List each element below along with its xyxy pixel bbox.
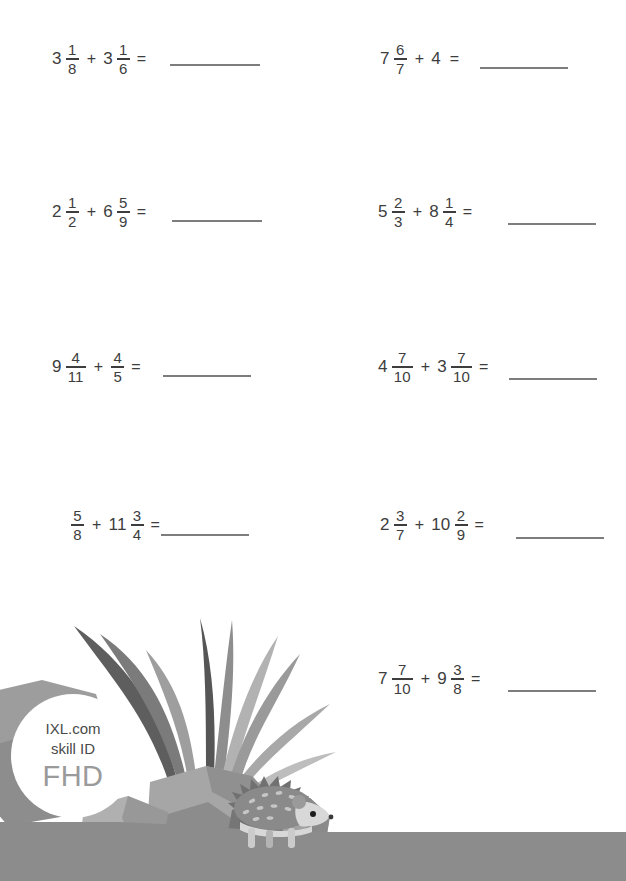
hedgehog-nose [329, 815, 334, 820]
numerator: 7 [396, 662, 409, 678]
rock-mid-left [80, 796, 174, 858]
problem-5: 9 4 11 + 4 5 = [52, 350, 145, 384]
answer-blank-3[interactable] [172, 220, 262, 222]
denominator: 9 [117, 213, 130, 229]
equals-sign: = [131, 50, 151, 68]
hedgehog-eye [310, 811, 316, 817]
problem-4-term-1-whole: 5 [378, 203, 391, 220]
problem-7-term-1-fraction: 5 8 [71, 508, 84, 542]
problem-2-term-1-whole: 7 [380, 50, 393, 67]
problem-9-term-1-whole: 7 [378, 670, 391, 687]
problem-2-term-2-whole: 4 [431, 50, 444, 67]
denominator: 3 [392, 213, 405, 229]
hedgehog-leg-mid [266, 830, 273, 848]
answer-blank-4[interactable] [508, 223, 596, 225]
problem-6-term-1-fraction: 7 10 [392, 350, 413, 384]
problem-9: 7 7 10 + 9 3 8 = [378, 662, 485, 696]
numerator: 5 [117, 195, 130, 211]
problem-1-term-1-whole: 3 [52, 50, 65, 67]
rock-mid-center [164, 802, 234, 854]
problem-3-term-2-whole: 6 [103, 203, 116, 220]
problem-3: 2 1 2 + 6 5 9 = [52, 195, 150, 229]
answer-blank-5[interactable] [163, 375, 251, 377]
equals-sign: = [145, 516, 165, 534]
grass-blade-6 [222, 636, 278, 780]
problem-3-term-1-fraction: 1 2 [66, 195, 79, 229]
problem-9-term-2-whole: 9 [437, 670, 450, 687]
problem-4-term-1-fraction: 2 3 [392, 195, 405, 229]
grass-blade-5 [214, 620, 233, 778]
grass-tuft [74, 618, 336, 796]
problem-2-term-1-fraction: 6 7 [394, 42, 407, 76]
denominator: 7 [394, 60, 407, 76]
numerator: 1 [443, 195, 456, 211]
numerator: 1 [66, 195, 79, 211]
problem-4-term-2-whole: 8 [429, 203, 442, 220]
grass-blade-3 [146, 650, 196, 780]
denominator: 8 [71, 526, 84, 542]
grass-blade-7 [230, 654, 300, 782]
denominator: 8 [451, 680, 464, 696]
problem-1-term-2-fraction: 1 6 [117, 42, 130, 76]
badge-skill-id-code: FHD [42, 760, 103, 793]
answer-blank-8[interactable] [516, 537, 604, 539]
plus-operator: + [414, 358, 438, 376]
problem-3-term-2-fraction: 5 9 [117, 195, 130, 229]
problem-6: 4 7 10 + 3 7 10 = [378, 350, 493, 384]
grass-blade-2 [100, 634, 186, 782]
problem-1-term-2-whole: 3 [103, 50, 116, 67]
equals-sign: = [457, 203, 477, 221]
problem-7: 5 8 + 11 3 4 = [70, 508, 164, 542]
problem-8-term-1-fraction: 3 7 [394, 508, 407, 542]
illustration-svg [0, 596, 626, 881]
problem-4-term-2-fraction: 1 4 [443, 195, 456, 229]
numerator: 2 [392, 195, 405, 211]
problem-8: 2 3 7 + 10 2 9 = [380, 508, 488, 542]
equals-sign: = [131, 203, 151, 221]
problem-5-term-1-whole: 9 [52, 358, 65, 375]
numerator: 4 [69, 350, 82, 366]
problem-2: 7 6 7 + 4 = [380, 42, 463, 76]
answer-blank-1[interactable] [170, 64, 260, 66]
rock-back-left-shade [0, 736, 66, 826]
problem-4: 5 2 3 + 8 1 4 = [378, 195, 476, 229]
numerator: 2 [455, 508, 468, 524]
equals-sign: = [469, 516, 489, 534]
denominator: 7 [394, 526, 407, 542]
problem-6-term-1-whole: 4 [378, 358, 391, 375]
hedgehog [228, 776, 333, 848]
answer-blank-7[interactable] [161, 534, 249, 536]
numerator: 4 [111, 350, 124, 366]
hedgehog-ear [292, 795, 306, 809]
numerator: 1 [117, 42, 130, 58]
rock-right-shade [306, 798, 330, 840]
plus-operator: + [408, 516, 432, 534]
badge-site-label: IXL.com [45, 719, 100, 739]
hedgehog-spike-body [234, 786, 314, 830]
numerator: 3 [131, 508, 144, 524]
badge-skill-id-label: skill ID [51, 739, 95, 759]
problem-1: 3 1 8 + 3 1 6 = [52, 42, 150, 76]
hedgehog-leg-front [248, 828, 255, 848]
problem-8-term-2-fraction: 2 9 [455, 508, 468, 542]
skill-id-badge: IXL.com skill ID FHD [11, 694, 135, 818]
ground-strip [0, 822, 626, 881]
answer-blank-2[interactable] [480, 67, 568, 69]
worksheet-page: 3 1 8 + 3 1 6 = 7 6 7 + 4 = 2 1 2 [0, 0, 626, 881]
denominator: 10 [392, 680, 413, 696]
denominator: 11 [66, 368, 86, 384]
grass-blade-8 [236, 704, 330, 788]
rock-grass-base-shade [206, 766, 280, 812]
equals-sign: = [125, 358, 145, 376]
problem-3-term-1-whole: 2 [52, 203, 65, 220]
problem-9-term-1-fraction: 7 10 [392, 662, 413, 696]
rock-right [276, 798, 330, 844]
answer-blank-9[interactable] [508, 690, 596, 692]
hedgehog-leg-back [288, 828, 295, 848]
rock-mid-left-shade [122, 796, 174, 848]
plus-operator: + [406, 203, 430, 221]
denominator: 10 [451, 368, 472, 384]
numerator: 7 [455, 350, 468, 366]
denominator: 4 [131, 526, 144, 542]
answer-blank-6[interactable] [509, 378, 597, 380]
